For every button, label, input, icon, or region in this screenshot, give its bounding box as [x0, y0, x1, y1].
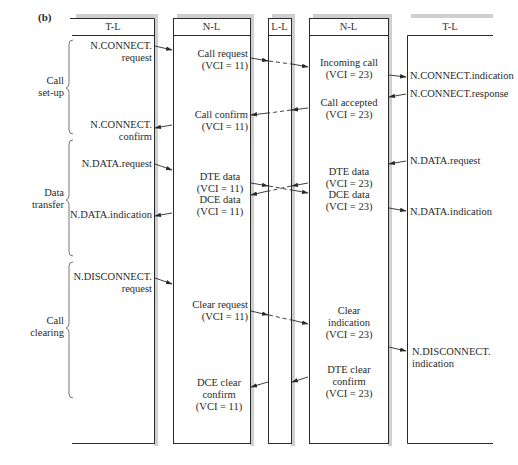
arrows-network: [251, 58, 308, 387]
column-tl-left: [70, 19, 155, 444]
header-nl-left: N-L: [173, 21, 250, 32]
label-n-data-indication-left: N.DATA.indication: [40, 209, 152, 221]
label-dce-data-left: DCE data(VCI = 11): [190, 194, 250, 218]
figure-label: (b): [38, 11, 51, 23]
header-tl-right: T-L: [407, 21, 493, 32]
column-ll: [269, 19, 292, 444]
label-n-connect-confirm: N.CONNECT.confirm: [60, 119, 152, 143]
label-n-connect-request: N.CONNECT.request: [60, 40, 152, 64]
phase-setup-label: Callset-up: [20, 75, 64, 99]
label-n-data-request-left: N.DATA.request: [60, 158, 152, 170]
phase-data-label: Datatransfer: [20, 187, 64, 211]
label-n-connect-indication: N.CONNECT.indication: [410, 70, 514, 82]
label-n-data-request-right: N.DATA.request: [410, 155, 480, 167]
label-n-data-indication-right: N.DATA.indication: [410, 206, 492, 218]
label-dte-clear-confirm: DTE clearconfirm(VCI = 23): [311, 364, 387, 400]
label-n-connect-response: N.CONNECT.response: [410, 88, 508, 100]
label-dce-clear-confirm: DCE clearconfirm(VCI = 11): [188, 377, 250, 413]
label-clear-request: Clear request(VCI = 11): [173, 299, 248, 323]
label-n-disconnect-request: N.DISCONNECT.request: [50, 271, 152, 295]
header-tl-left: T-L: [72, 21, 154, 32]
label-call-accepted: Call accepted(VCI = 23): [311, 97, 387, 121]
phase-clearing-label: Callclearing: [14, 315, 64, 339]
label-dte-data-left: DTE data(VCI = 11): [190, 171, 250, 195]
header-ll: L-L: [268, 21, 291, 32]
label-dce-data-right: DCE data(VCI = 23): [311, 189, 387, 213]
label-call-request: Call request(VCI = 11): [173, 48, 248, 72]
label-call-confirm: Call confirm(VCI = 11): [173, 109, 248, 133]
label-incoming-call: Incoming call(VCI = 23): [311, 57, 387, 81]
label-dte-data-right: DTE data(VCI = 23): [311, 166, 387, 190]
label-n-disconnect-indication: N.DISCONNECT.indication: [412, 346, 491, 370]
header-nl-right: N-L: [309, 21, 388, 32]
label-clear-indication: Clearindication(VCI = 23): [311, 305, 387, 341]
